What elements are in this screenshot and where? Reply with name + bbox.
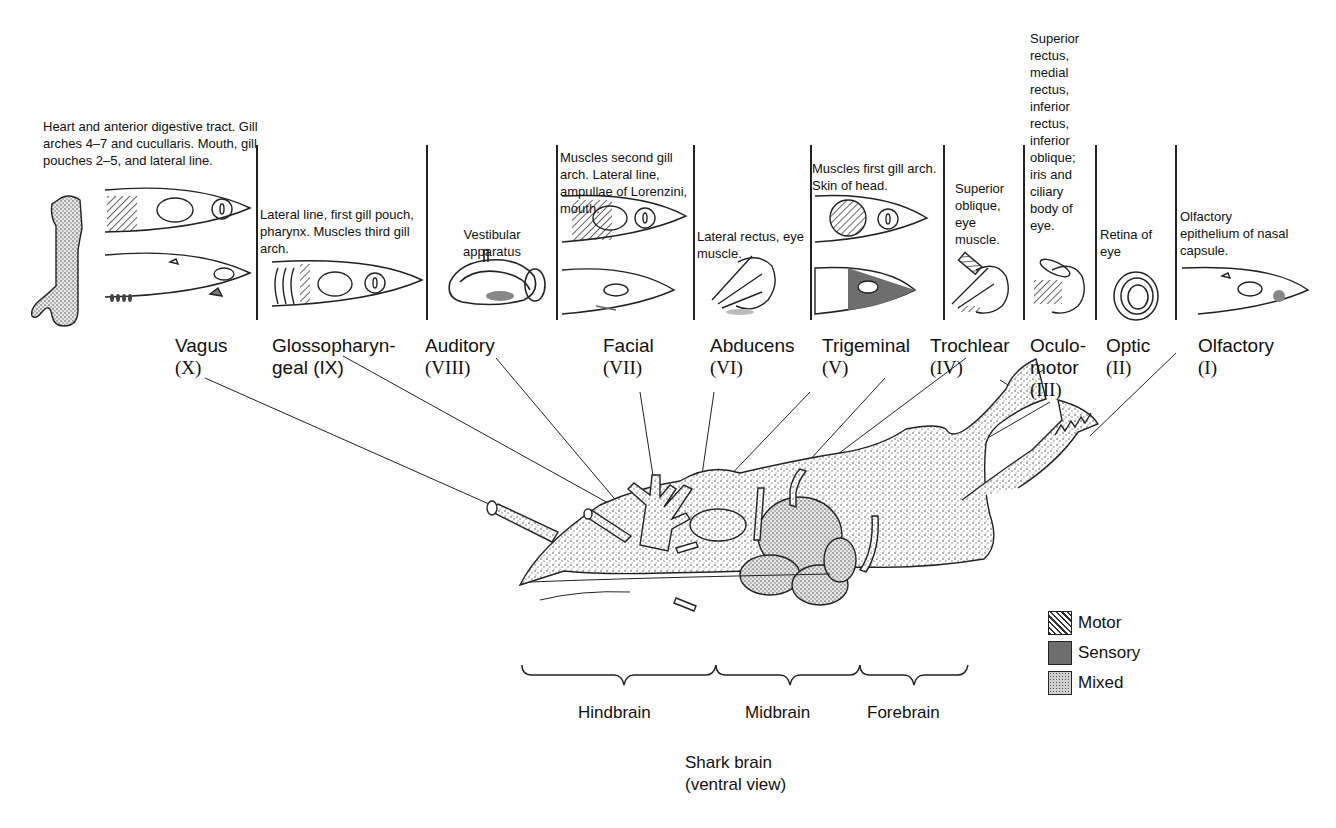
motor-swatch-icon <box>1048 611 1072 635</box>
facial-function: Muscles second gill arch. Lateral line, … <box>560 149 690 217</box>
column-divider <box>556 145 558 320</box>
region-midbrain: Midbrain <box>745 703 810 723</box>
abducens-illustration <box>712 256 775 315</box>
legend-label-sensory: Sensory <box>1078 643 1140 663</box>
trochlear-function: Superior oblique, eye muscle. <box>955 180 1021 248</box>
olfactory-illustration <box>1182 267 1308 314</box>
column-divider <box>1175 145 1177 320</box>
trigeminal-numeral: (V) <box>822 357 848 378</box>
sensory-swatch-icon <box>1048 641 1072 665</box>
auditory-numeral: (VIII) <box>425 357 470 378</box>
abducens-numeral: (VI) <box>710 357 743 378</box>
figure-subtitle: (ventral view) <box>685 774 786 796</box>
olfactory-numeral: (I) <box>1198 357 1217 378</box>
abducens-function: Lateral rectus, eye muscle. <box>697 228 805 262</box>
trigeminal-illustration <box>815 195 927 314</box>
optic-numeral: (II) <box>1106 357 1131 378</box>
region-braces <box>522 665 968 685</box>
abducens-label: Abducens <box>710 335 795 356</box>
vagus-label: Vagus <box>175 335 227 356</box>
trigeminal-function: Muscles first gill arch. Skin of head. <box>812 160 948 194</box>
vagus-illustration <box>32 188 250 326</box>
glossopharyngeal-illustration <box>272 261 422 306</box>
vagus-function: Heart and anterior digestive tract. Gill… <box>43 118 258 169</box>
optic-illustration <box>1114 272 1158 320</box>
oculomotor-illustration <box>1034 256 1084 313</box>
auditory-function: Vestibular apparatus <box>452 226 532 260</box>
column-divider <box>693 145 695 320</box>
glossopharyngeal-label-line2: geal (IX) <box>272 357 344 378</box>
trochlear-numeral: (IV) <box>930 357 963 378</box>
oculomotor-label: Oculo- <box>1030 335 1086 356</box>
region-hindbrain: Hindbrain <box>578 703 651 723</box>
shark-brain-drawing <box>487 359 1098 611</box>
column-divider <box>256 145 258 320</box>
facial-label: Facial <box>603 335 654 356</box>
trochlear-label: Trochlear <box>930 335 1010 356</box>
column-divider <box>1095 145 1097 320</box>
legend-item-motor: Motor <box>1048 611 1121 635</box>
trochlear-illustration <box>952 253 1008 314</box>
region-forebrain: Forebrain <box>867 703 940 723</box>
legend-label-motor: Motor <box>1078 613 1121 633</box>
column-divider <box>426 145 428 320</box>
mixed-swatch-icon <box>1048 671 1072 695</box>
glossopharyngeal-function: Lateral line, first gill pouch, pharynx.… <box>260 206 425 257</box>
vagus-numeral: (X) <box>175 357 201 378</box>
auditory-label: Auditory <box>425 335 495 356</box>
glossopharyngeal-label: Glossopharyn- <box>272 335 396 356</box>
optic-label: Optic <box>1106 335 1150 356</box>
trigeminal-label: Trigeminal <box>822 335 910 356</box>
oculomotor-numeral: (III) <box>1030 379 1062 400</box>
facial-numeral: (VII) <box>603 357 642 378</box>
column-divider <box>1023 145 1025 320</box>
oculomotor-function: Superior rectus, medial rectus, inferior… <box>1030 30 1092 234</box>
legend-label-mixed: Mixed <box>1078 673 1123 693</box>
legend-item-mixed: Mixed <box>1048 671 1123 695</box>
figure-title: Shark brain <box>685 752 772 774</box>
legend-item-sensory: Sensory <box>1048 641 1140 665</box>
olfactory-label: Olfactory <box>1198 335 1274 356</box>
oculomotor-label-line2: motor <box>1030 357 1079 378</box>
olfactory-function: Olfactory epithelium of nasal capsule. <box>1180 208 1290 259</box>
optic-function: Retina of eye <box>1100 226 1172 260</box>
